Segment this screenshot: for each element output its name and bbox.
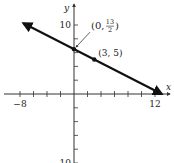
point-label-intercept: (0, 13 2 ) [91,18,119,34]
intercept-frac-num: 13 [106,18,114,26]
data-point [92,57,96,61]
y-tick-label-min: −10 [52,158,71,163]
data-point [72,47,76,51]
y-tick-label-max: 10 [60,20,72,30]
intercept-label-open: (0, [91,20,104,31]
x-tick-label-min: −8 [13,99,27,109]
intercept-label-close: ) [115,20,119,31]
y-axis-label: y [63,3,70,13]
intercept-leader-arrow [76,32,90,47]
point-label-3-5: (3, 5) [98,48,122,58]
line-graph: x y −8 12 10 −10 (0, 13 2 ) (3, 5) [0,0,174,163]
x-axis-label: x [166,82,171,92]
x-tick-label-max: 12 [149,99,160,109]
intercept-frac-den: 2 [108,26,112,34]
